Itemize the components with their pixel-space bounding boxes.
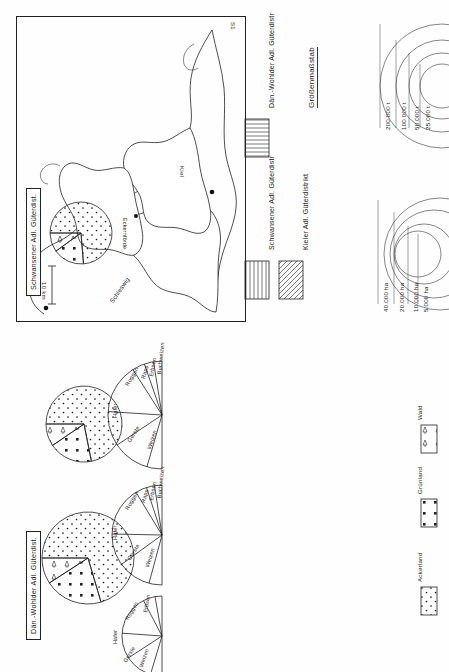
landuse-pie-schwansener [48,200,114,266]
map-drawing [16,16,244,320]
landuse-legend-label-ackerland: Ackerland [416,553,423,582]
place-dot-schleswig [44,306,49,311]
landuse-pie-daen-wohlder [44,384,124,464]
size-scale-upper-label-0: 200.000 t [384,102,391,130]
legend-label-schwansener: Schwansener Adl. Güterdistr [268,156,275,250]
landuse-legend-swatch-gruenland [420,498,438,528]
landuse-legend-label-wald: Wald [416,405,423,420]
legend-swatch-daen-wohlder [244,118,270,158]
size-scale-title: Größenmaßstab [307,47,318,108]
legend-label-kieler: Kieler Adl. Güterdistrikt [302,174,309,250]
map-scale-bar [48,266,56,304]
size-scale-upper-label-3: 25.000 t [424,106,431,130]
place-dot-eckernfoerde [134,214,138,218]
landuse-legend-swatch-wald [420,424,438,454]
district-title-daen-wohlder: Dän.-Wohlder Adl. Güterdist. [26,531,41,640]
size-scale-lower-label-0: 40.000 ha [382,283,389,312]
map-scale-label: 10 km [41,282,48,300]
legend-swatch-schwansener [244,260,270,300]
size-scale-lower-label-2: 10.000 ha [412,283,419,312]
crops-label-sw-hafer: Hafer [112,630,118,644]
landuse-legend-swatch-ackerland [420,586,438,616]
size-scale-upper-label-1: 100.000 t [400,102,407,130]
size-scale-lower-label-1: 20.000 ha [398,283,405,312]
size-scale-upper-label-2: 50.000 t [413,106,420,130]
size-scale-title-wrap: Größenmaßstab [300,47,318,108]
figure-plate: S1 Schleswig Eckernförde Kiel 10 km Dän.… [0,0,449,672]
legend-swatch-kieler [278,260,304,300]
map-label-kiel: Kiel [179,166,186,177]
plate-code: S1 [230,22,236,30]
landuse-pie-kieler [40,510,136,606]
size-scale-upper-circles [330,16,446,156]
map-label-eckernfoerde: Eckernförde [122,218,128,249]
district-title-schwansener: Schwansener Adl. Güterdist. [26,188,41,296]
landuse-legend-label-gruenland: Grünland [416,467,423,494]
place-dot-kiel [210,190,215,195]
size-scale-lower-label-3: 5.000 ha [422,286,429,312]
legend-label-daen-wohlder: Dän.-Wohlder Adl. Güterdistr [268,13,275,108]
